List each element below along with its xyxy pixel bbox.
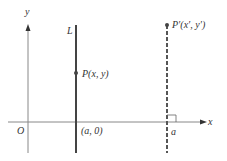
x-axis-label: x (208, 117, 212, 127)
point-P-dot (74, 71, 78, 75)
point-P-prime-label: P′(x′, y′) (172, 20, 205, 30)
reflection-diagram: y x O L P(x, y) (a, 0) P′(x′, y′) a (0, 0, 227, 161)
point-P-prime-dot (165, 23, 169, 27)
x-axis-arrow-icon (200, 120, 207, 125)
point-P-label: P(x, y) (82, 69, 109, 79)
y-axis-arrow-icon (26, 24, 31, 31)
origin-label: O (17, 126, 24, 136)
line-L-label: L (67, 26, 73, 36)
line-L-foot-label: (a, 0) (81, 126, 103, 136)
y-axis-label: y (25, 7, 29, 17)
reflection-foot-label: a (171, 127, 176, 137)
right-angle-marker (167, 115, 176, 122)
